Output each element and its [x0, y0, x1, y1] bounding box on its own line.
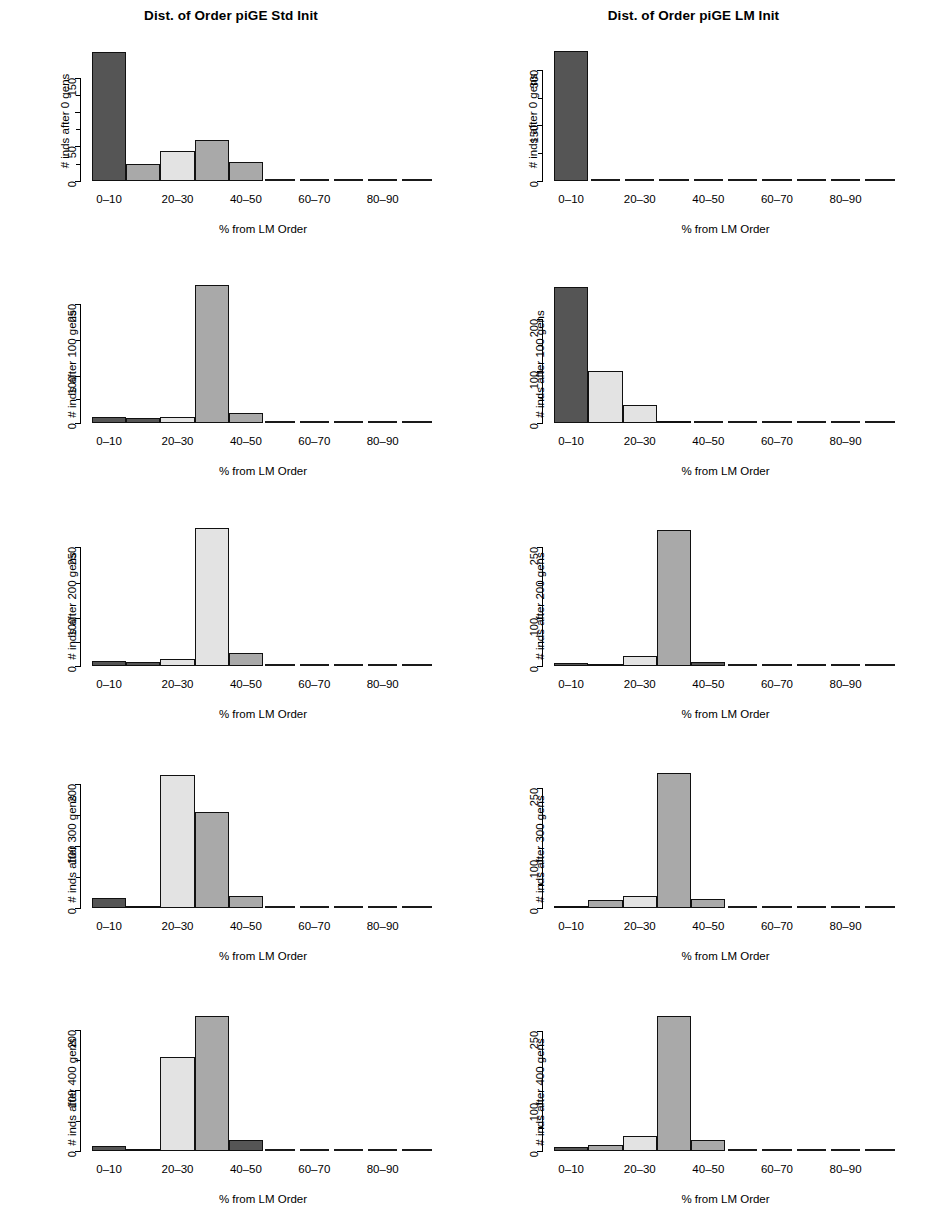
y-axis-tick: [538, 642, 543, 643]
histogram-bar: [554, 51, 588, 180]
y-axis-tick: [538, 397, 543, 398]
bars-container: [554, 1008, 897, 1151]
x-axis-tick-label: 20–30: [162, 435, 194, 447]
x-axis-label: % from LM Order: [554, 708, 897, 720]
y-axis-tick-label: 0: [66, 666, 78, 672]
y-axis-tick-label: 300: [528, 70, 540, 88]
x-axis-tick-label: 80–90: [367, 435, 399, 447]
x-axis-tick-label: 60–70: [298, 1163, 330, 1175]
x-axis-label: % from LM Order: [92, 950, 434, 962]
x-axis-tick-label: 0–10: [96, 678, 122, 690]
panel-title: Dist. of Order piGE Std Init: [0, 8, 462, 23]
x-axis-tick-label: 0–10: [558, 435, 584, 447]
histogram-bar: [195, 812, 229, 908]
y-axis: 0100200: [80, 784, 81, 908]
x-axis-tick-label: 80–90: [367, 193, 399, 205]
x-axis-tick-label: 40–50: [230, 920, 262, 932]
y-axis-tick: [76, 815, 81, 816]
x-axis-tick-label: 20–30: [624, 678, 656, 690]
y-axis-label: # inds after 100 gens: [66, 310, 78, 417]
x-axis-tick-label: 60–70: [761, 678, 793, 690]
histogram-panel: # inds after 400 gens% from LM Order0100…: [0, 970, 462, 1213]
x-axis-tick-label: 80–90: [367, 920, 399, 932]
y-axis: 0100250: [542, 788, 543, 909]
y-axis-tick: [76, 1060, 81, 1061]
x-axis-tick-labels: 0–1020–3040–5060–7080–90: [92, 1151, 434, 1181]
histogram-bar: [623, 1136, 657, 1151]
histogram-panel: Dist. of Order piGE Std Init# inds after…: [0, 0, 462, 243]
x-axis-tick-label: 60–70: [761, 435, 793, 447]
x-axis-tick-label: 0–10: [558, 920, 584, 932]
y-axis-tick-label: 100: [528, 618, 540, 636]
histogram-bar: [691, 1140, 725, 1151]
x-axis-tick-label: 0–10: [96, 1163, 122, 1175]
x-axis-label: % from LM Order: [92, 1193, 434, 1205]
x-axis-tick-label: 0–10: [96, 435, 122, 447]
x-axis-label: % from LM Order: [92, 465, 434, 477]
y-axis-tick-label: 250: [528, 788, 540, 806]
y-axis-tick-label: 100: [528, 1103, 540, 1121]
plot-area: 01002500–1020–3040–5060–7080–90: [92, 523, 434, 666]
y-axis-tick-label: 0: [528, 423, 540, 429]
histogram-bar: [229, 653, 263, 666]
plot-area: 01002500–1020–3040–5060–7080–90: [92, 281, 434, 424]
x-axis-tick-label: 40–50: [230, 435, 262, 447]
y-axis: 0100250: [542, 547, 543, 666]
x-axis-tick-label: 60–70: [298, 193, 330, 205]
x-axis-label: % from LM Order: [554, 465, 897, 477]
y-axis-tick-label: 50: [66, 146, 78, 158]
y-axis-tick-label: 100: [528, 371, 540, 389]
x-axis-tick-labels: 0–1020–3040–5060–7080–90: [554, 666, 897, 696]
y-axis-tick-label: 100: [66, 618, 78, 636]
y-axis-tick-label: 0: [528, 908, 540, 914]
y-axis-tick-label: 100: [66, 376, 78, 394]
y-axis: 0100200: [542, 319, 543, 423]
x-axis-label: % from LM Order: [554, 223, 897, 235]
x-axis-tick-label: 60–70: [298, 435, 330, 447]
y-axis-label: # inds after 300 gens: [534, 795, 546, 902]
y-axis-tick: [76, 164, 81, 165]
histogram-panel: # inds after 300 gens% from LM Order0100…: [462, 728, 925, 971]
x-axis-tick-label: 20–30: [162, 1163, 194, 1175]
plot-area: 0501500–1020–3040–5060–7080–90: [92, 44, 434, 181]
plot-area: 01002500–1020–3040–5060–7080–90: [554, 1008, 897, 1151]
bars-container: [92, 766, 434, 909]
x-axis-tick-labels: 0–1020–3040–5060–7080–90: [92, 181, 434, 211]
plot-area: 01002500–1020–3040–5060–7080–90: [554, 523, 897, 666]
y-axis-tick: [538, 345, 543, 346]
histogram-panel: # inds after 300 gens% from LM Order0100…: [0, 728, 462, 971]
histogram-bar: [92, 417, 126, 424]
x-axis-tick-label: 20–30: [162, 193, 194, 205]
x-axis-tick-labels: 0–1020–3040–5060–7080–90: [92, 423, 434, 453]
x-axis-tick-label: 0–10: [558, 1163, 584, 1175]
y-axis-label: # inds after 200 gens: [66, 553, 78, 660]
histogram-bar: [160, 1057, 194, 1151]
y-axis-tick: [76, 877, 81, 878]
y-axis-tick: [538, 1067, 543, 1068]
y-axis-tick-label: 100: [66, 846, 78, 864]
histogram-bar: [554, 287, 588, 423]
y-axis-tick-label: 250: [528, 547, 540, 565]
x-axis-tick-label: 40–50: [230, 678, 262, 690]
x-axis-tick-label: 80–90: [830, 678, 862, 690]
y-axis-tick-label: 0: [66, 1151, 78, 1157]
x-axis-tick-label: 80–90: [830, 435, 862, 447]
x-axis-tick-labels: 0–1020–3040–5060–7080–90: [554, 908, 897, 938]
x-axis-tick-label: 20–30: [162, 920, 194, 932]
x-axis-tick-label: 0–10: [96, 193, 122, 205]
x-axis-tick-label: 40–50: [692, 920, 724, 932]
x-axis-tick-label: 80–90: [830, 1163, 862, 1175]
histogram-panel: # inds after 100 gens% from LM Order0100…: [462, 243, 925, 486]
plot-area: 01002000–1020–3040–5060–7080–90: [92, 766, 434, 909]
plot-area: 01002000–1020–3040–5060–7080–90: [554, 281, 897, 424]
x-axis-tick-label: 60–70: [298, 920, 330, 932]
histogram-bar: [126, 164, 160, 180]
x-axis-label: % from LM Order: [554, 950, 897, 962]
plot-area: 01002000–1020–3040–5060–7080–90: [92, 1008, 434, 1151]
y-axis: 0100200: [80, 1030, 81, 1151]
histogram-grid: Dist. of Order piGE Std Init# inds after…: [0, 0, 925, 1213]
y-axis: 0100250: [80, 304, 81, 423]
x-axis-tick-label: 20–30: [624, 1163, 656, 1175]
histogram-bar: [229, 162, 263, 180]
x-axis-tick-label: 20–30: [624, 920, 656, 932]
